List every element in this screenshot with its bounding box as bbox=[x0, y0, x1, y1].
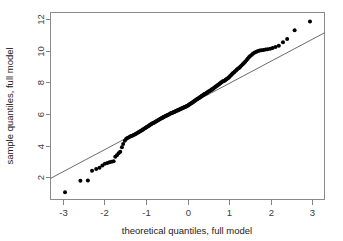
qq-plot-figure: -3-2-10123 24681012 theoretical quantile… bbox=[0, 0, 343, 241]
x-tick-label: -2 bbox=[100, 207, 108, 218]
data-points bbox=[63, 20, 312, 195]
data-point bbox=[118, 150, 122, 154]
x-tick-label: -3 bbox=[59, 207, 67, 218]
y-tick-label: 10 bbox=[35, 46, 46, 57]
x-axis-tick-labels: -3-2-10123 bbox=[59, 207, 315, 218]
y-tick-label: 6 bbox=[35, 112, 46, 117]
x-tick-label: -1 bbox=[142, 207, 150, 218]
y-tick-label: 12 bbox=[35, 14, 46, 25]
data-point bbox=[63, 190, 67, 194]
x-tick-label: 0 bbox=[186, 207, 191, 218]
y-tick-label: 4 bbox=[35, 144, 46, 149]
x-tick-label: 1 bbox=[227, 207, 232, 218]
x-axis-title: theoretical quantiles, full model bbox=[122, 225, 252, 236]
data-point bbox=[112, 159, 116, 163]
y-tick-label: 8 bbox=[35, 80, 46, 85]
y-axis-title: sample quantiles, full model bbox=[4, 47, 15, 164]
data-point bbox=[285, 37, 289, 41]
y-axis-ticks bbox=[46, 20, 51, 178]
data-point bbox=[277, 44, 281, 48]
y-axis-tick-labels: 24681012 bbox=[35, 14, 46, 180]
data-point bbox=[86, 178, 90, 182]
x-tick-label: 3 bbox=[310, 207, 315, 218]
x-tick-label: 2 bbox=[269, 207, 274, 218]
data-point bbox=[78, 179, 82, 183]
x-axis-ticks bbox=[64, 200, 313, 205]
data-point bbox=[293, 28, 297, 32]
data-point bbox=[90, 169, 94, 173]
data-point bbox=[281, 40, 285, 44]
y-tick-label: 2 bbox=[35, 175, 46, 180]
qq-plot-canvas: -3-2-10123 24681012 theoretical quantile… bbox=[0, 0, 343, 241]
data-point bbox=[308, 20, 312, 24]
